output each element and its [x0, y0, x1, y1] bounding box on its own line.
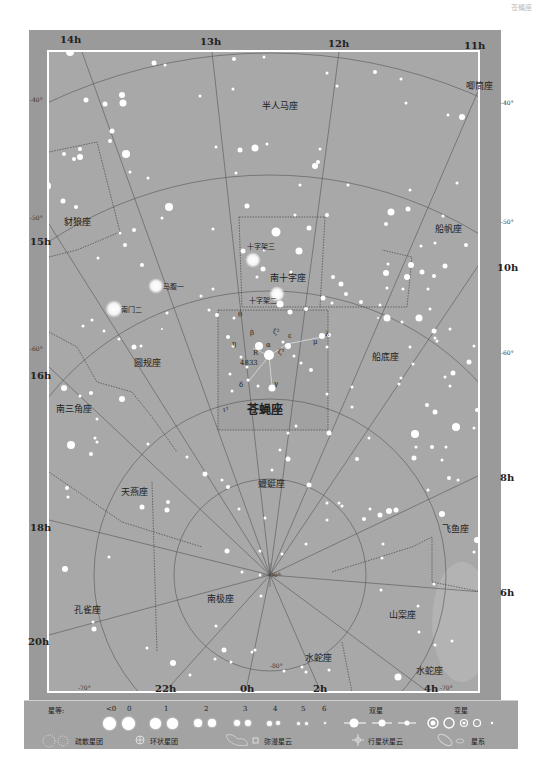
ra-label-4h: 4h	[424, 683, 438, 694]
legend-mag-3: 3	[243, 705, 247, 713]
legend-diffuse-nebula: 弥漫星云	[264, 736, 292, 746]
legend-star-mag-6	[324, 722, 326, 724]
galaxy-icon	[436, 732, 466, 748]
constellation-lupus: 豺狼座	[64, 215, 91, 228]
star-label-iota1: ι¹	[223, 406, 229, 414]
diffuse-nebula-icon	[224, 731, 262, 749]
legend-star-mag-3b	[245, 720, 251, 726]
dec-label-90: -90°	[268, 571, 281, 578]
ra-label-16h: 16h	[30, 370, 51, 381]
ra-label-14h: 14h	[60, 34, 81, 45]
legend-mag-5: 5	[301, 705, 305, 713]
constellation-hydrus-2: 水蛇座	[416, 664, 443, 677]
legend-star-mag-2b	[208, 719, 216, 727]
star-label-alpha: α	[266, 341, 271, 349]
constellation-mensa: 山案座	[389, 608, 416, 621]
legend-mag-lt0: <0	[106, 705, 116, 713]
legend-mag-1: 1	[164, 705, 168, 713]
ra-label-18h: 18h	[30, 522, 51, 533]
ra-label-20h: 20h	[28, 636, 49, 647]
star-label-4833: 4833	[240, 359, 258, 367]
page-header-note: 苍蝇座	[511, 2, 532, 12]
legend-star-mag-3a	[234, 720, 240, 726]
dec-label-bottom-70-left: -70°	[78, 684, 91, 691]
globular-cluster-icon	[135, 735, 145, 745]
constellation-centaurus: 半人马座	[262, 99, 298, 112]
constellation-apus: 天燕座	[121, 485, 148, 498]
star-label-alpha-centauri: 南门二	[121, 304, 142, 314]
legend-star-mag-1b	[167, 718, 178, 729]
legend-star-mag-lt0	[103, 717, 116, 730]
ra-label-6h: 6h	[500, 587, 514, 598]
constellation-pavo: 孔雀座	[74, 603, 101, 616]
dec-label-right-50: -50°	[501, 218, 514, 225]
legend-star-mag-0	[122, 717, 135, 730]
star-label-hadar: 马腹一	[163, 281, 184, 291]
legend-variable-star: 变星	[454, 705, 468, 715]
star-label-gamma: γ	[274, 380, 278, 388]
dec-label-left-60: -60°	[30, 345, 43, 352]
star-label-eta: η	[232, 340, 236, 348]
star-label-theta: θ	[238, 311, 242, 319]
constellation-hydrus-1: 水蛇座	[305, 651, 332, 664]
legend-planetary-nebula: 行星状星云	[368, 736, 403, 746]
legend: 星等: <0 0 1 2 3 4 5 6 双星 变星 疏散星团 环状星团	[24, 700, 518, 749]
legend-open-cluster: 疏散星团	[75, 736, 103, 746]
dec-label-left-50: -50°	[30, 214, 43, 221]
dec-label-right-60: -60°	[501, 349, 514, 356]
legend-star-mag-2a	[194, 719, 202, 727]
constellation-volans: 飞鱼座	[442, 522, 469, 535]
dec-label-80: -80°	[270, 662, 283, 669]
legend-mag-6: 6	[322, 705, 326, 713]
ra-label-22h: 22h	[155, 683, 176, 694]
constellation-vela: 船帆座	[435, 222, 462, 235]
constellation-carina: 船底座	[372, 350, 399, 363]
ra-label-12h: 12h	[328, 38, 349, 49]
constellation-circinus: 圆规座	[134, 356, 161, 369]
star-label-mimosa-alt: 十字架三	[247, 241, 275, 251]
constellation-antlia: 唧筒座	[466, 79, 493, 92]
star-label-epsilon: ε	[288, 332, 292, 340]
legend-star-mag-4b	[276, 721, 280, 725]
star-label-zeta1: ζ¹	[278, 348, 285, 356]
ra-label-8h: 8h	[500, 472, 514, 483]
ra-label-15h: 15h	[30, 236, 51, 247]
legend-star-mag-5a	[297, 722, 300, 725]
legend-galaxy: 星系	[471, 736, 485, 746]
legend-mag-2: 2	[204, 705, 208, 713]
legend-mag-4: 4	[273, 705, 277, 713]
dec-label-left-40: -40°	[30, 96, 43, 103]
constellation-musca: 苍蝇座	[247, 400, 283, 417]
legend-variable-star-icons	[426, 715, 506, 731]
dec-label-right-40: -40°	[501, 99, 514, 106]
planetary-nebula-icon	[352, 734, 364, 746]
legend-double-star-icons	[342, 715, 422, 731]
open-cluster-icon	[42, 734, 72, 748]
star-label-delta: δ	[239, 381, 243, 389]
ra-label-11h: 11h	[464, 40, 485, 51]
star-label-zeta2: ζ²	[273, 328, 280, 336]
star-chart	[47, 50, 480, 693]
constellation-triangulum-australe: 南三角座	[56, 402, 92, 415]
star-label-beta: β	[250, 329, 254, 337]
legend-mag-0: 0	[127, 705, 131, 713]
star-label-acrux: 十字架二	[249, 295, 277, 305]
ra-label-10h: 10h	[497, 262, 518, 273]
ra-label-0h: 0h	[240, 683, 254, 694]
star-label-lambda: λ	[325, 330, 329, 338]
legend-star-mag-5b	[305, 722, 308, 725]
chart-graphics	[49, 52, 480, 693]
constellation-crux: 南十字座	[270, 271, 306, 284]
dec-label-bottom-70-right: -70°	[440, 684, 453, 691]
ra-label-2h: 2h	[313, 683, 327, 694]
star-label-r: R	[253, 349, 258, 357]
legend-globular-cluster: 环状星团	[150, 736, 178, 746]
legend-star-mag-4a	[267, 721, 272, 726]
constellation-chamaeleon: 蝘蜓座	[258, 477, 285, 490]
constellation-octans: 南极座	[207, 592, 234, 605]
ra-label-13h: 13h	[200, 36, 221, 47]
legend-double-star: 双星	[369, 705, 383, 715]
star-label-mu: μ	[313, 338, 318, 346]
legend-magnitude-title: 星等:	[48, 705, 64, 715]
legend-star-mag-1a	[150, 718, 161, 729]
